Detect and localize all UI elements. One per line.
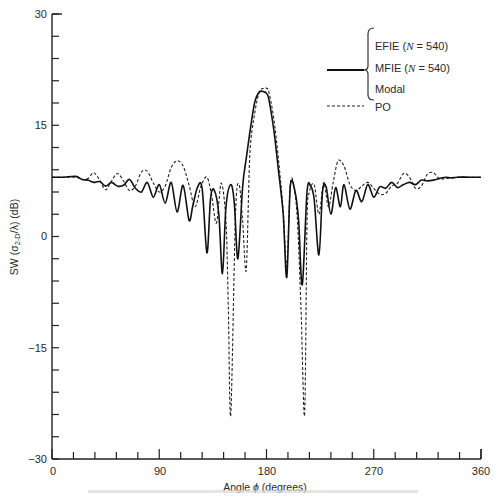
x-axis-ticks <box>52 449 481 459</box>
legend-mfie: MFIE (N = 540) <box>375 62 450 74</box>
y-tick-label-15: 15 <box>35 119 47 131</box>
legend-brace <box>364 28 374 100</box>
x-tick-label-180: 180 <box>258 465 276 477</box>
axes <box>52 14 481 459</box>
y-tick-label-30: 30 <box>35 8 47 20</box>
legend-po: PO <box>375 101 391 113</box>
po-curve <box>52 88 481 417</box>
y-axis-title: SW (σ2-D/λ) (dB) <box>8 199 22 275</box>
y-tick-label-neg30: −30 <box>28 453 47 465</box>
legend: EFIE (N = 540) MFIE (N = 540) Modal PO <box>327 28 450 113</box>
y-axis-ticks <box>52 14 59 459</box>
x-tick-label-90: 90 <box>154 465 166 477</box>
x-tick-label-360: 360 <box>472 465 490 477</box>
y-tick-label-0: 0 <box>41 230 47 242</box>
efie-mfie-modal-curve <box>52 91 481 285</box>
y-tick-label-neg15: −15 <box>28 342 47 354</box>
caption-remnant <box>88 490 418 493</box>
chart-figure: 30 15 0 −15 −30 0 90 180 270 360 Angle ϕ… <box>0 0 500 499</box>
legend-efie: EFIE (N = 540) <box>375 40 448 52</box>
legend-modal: Modal <box>375 83 405 95</box>
x-tick-label-0: 0 <box>50 465 56 477</box>
x-tick-label-270: 270 <box>365 465 383 477</box>
